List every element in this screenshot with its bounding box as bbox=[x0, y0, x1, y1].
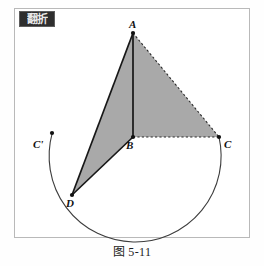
point-c-prime-label: C' bbox=[33, 138, 43, 150]
point-c-dot bbox=[217, 135, 221, 139]
geometry-canvas bbox=[0, 0, 264, 266]
point-c-label: C bbox=[224, 138, 231, 150]
point-a-dot bbox=[131, 31, 135, 35]
geometry-svg bbox=[0, 0, 264, 266]
point-c-prime-dot bbox=[50, 131, 54, 135]
figure-page: 翻折 A B C bbox=[0, 0, 264, 266]
point-a-label: A bbox=[129, 18, 136, 30]
point-d-label: D bbox=[66, 197, 74, 209]
figure-caption: 图 5-11 bbox=[0, 242, 264, 260]
point-b-label: B bbox=[126, 139, 133, 151]
